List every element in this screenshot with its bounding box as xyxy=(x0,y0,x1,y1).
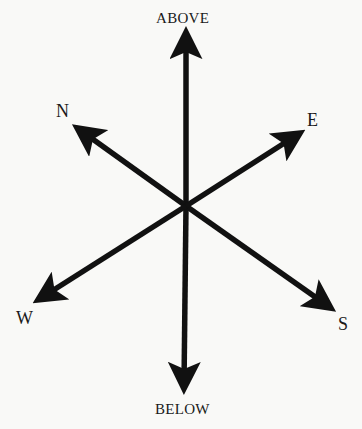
label-east: E xyxy=(307,111,318,129)
arrow-north xyxy=(80,130,186,206)
label-below: BELOW xyxy=(155,402,210,417)
label-above: ABOVE xyxy=(156,11,209,26)
arrow-west xyxy=(41,206,186,298)
arrow-south xyxy=(186,206,328,306)
arrow-east xyxy=(186,135,297,206)
label-north: N xyxy=(56,102,69,120)
arrow-below xyxy=(184,206,186,385)
label-west: W xyxy=(16,309,33,327)
label-south: S xyxy=(338,315,348,333)
compass-diagram xyxy=(0,0,362,429)
